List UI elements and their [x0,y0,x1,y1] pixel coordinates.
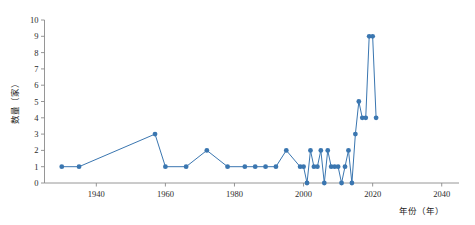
y-tick-label: 1 [34,162,38,172]
y-tick-label: 9 [34,31,38,41]
data-point [353,132,358,137]
data-point [363,115,368,120]
y-tick-label: 6 [34,80,38,90]
data-point [350,181,355,186]
data-point [242,164,247,169]
y-tick-label: 7 [34,64,38,74]
x-tick-label: 2020 [364,189,381,199]
x-tick-label: 2040 [433,189,450,199]
data-point [253,164,258,169]
data-point [343,164,348,169]
data-point [336,164,341,169]
data-point [225,164,230,169]
data-point [318,148,323,153]
y-tick-label: 4 [34,113,39,123]
data-point [308,148,313,153]
data-point [184,164,189,169]
data-point [374,115,379,120]
x-tick-label: 1940 [88,189,105,199]
data-point [263,164,268,169]
y-tick-label: 0 [34,178,38,188]
data-point [204,148,209,153]
data-point [274,164,279,169]
data-point [346,148,351,153]
data-point [59,164,64,169]
data-point [77,164,82,169]
y-tick-label: 5 [34,97,38,107]
y-tick-label: 3 [34,129,38,139]
y-tick-label: 8 [34,48,38,58]
y-tick-label: 2 [34,145,38,155]
x-tick-label: 2000 [295,189,312,199]
x-tick-label: 1980 [226,189,243,199]
data-point [153,132,158,137]
data-point [322,181,327,186]
data-point [339,181,344,186]
y-tick-label: 10 [30,15,39,25]
data-point [356,99,361,104]
data-point [301,164,306,169]
data-point [284,148,289,153]
y-axis-title: 数量（家） [10,79,20,124]
x-axis-title: 年份（年） [399,206,444,216]
data-point [325,148,330,153]
data-point [163,164,168,169]
x-tick-label: 1960 [157,189,174,199]
axis-spines [45,20,460,183]
series-line-数量 [62,36,376,183]
data-point [370,34,375,39]
line-chart-svg: 012345678910194019601980200020202040年份（年… [0,0,475,225]
chart-figure: 012345678910194019601980200020202040年份（年… [0,0,475,225]
data-point [315,164,320,169]
data-point [305,181,310,186]
